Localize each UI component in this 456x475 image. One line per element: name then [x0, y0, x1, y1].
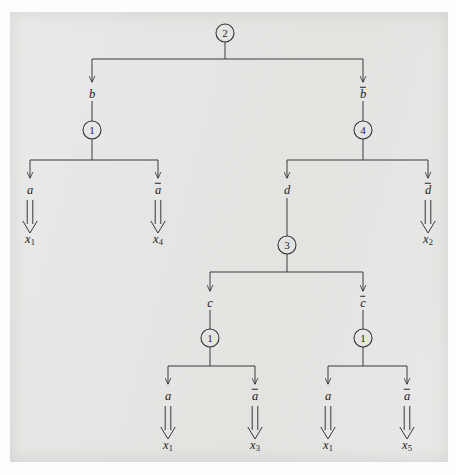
node-label-2: 2 [222, 28, 228, 39]
edge-label-a-2: a [165, 390, 171, 403]
leaf-label-x3: x3 [250, 439, 260, 453]
edge-label-a-bar-3: a [404, 390, 410, 403]
edge-label-d-bar: d [425, 184, 431, 197]
node-label-4: 4 [360, 125, 366, 136]
edge-label-b: b [89, 88, 95, 101]
leaf-label-x1-a: x1 [25, 233, 35, 247]
edge-label-c-bar: c [360, 297, 366, 310]
node-label-1-right: 1 [360, 333, 366, 344]
double-arrow-abar-to-x4 [151, 200, 165, 233]
node-label-1-center: 1 [207, 333, 213, 344]
edge-label-d: d [284, 184, 290, 197]
leaf-label-x5: x5 [402, 439, 412, 453]
node-label-3: 3 [284, 240, 290, 251]
leaf-label-x4: x4 [153, 233, 163, 247]
double-arrow-abar-to-x3 [248, 406, 262, 439]
tree-graphics [0, 0, 456, 475]
leaf-label-x1-b: x1 [163, 439, 173, 453]
node-label-1-left: 1 [89, 125, 95, 136]
double-arrow-dbar-to-x2 [421, 200, 435, 233]
edge-label-a-3: a [325, 390, 331, 403]
edge-label-a-1: a [27, 184, 33, 197]
edge-label-b-bar: b [360, 88, 366, 101]
double-arrow-a-to-x1 [23, 200, 37, 233]
double-arrow-a-to-x1-b [161, 406, 175, 439]
double-arrow-abar-to-x5 [400, 406, 414, 439]
leaf-label-x2: x2 [423, 233, 433, 247]
edge-label-c: c [207, 297, 213, 310]
figure-page: 2 1 4 3 1 1 b b a a d d c c a a a a x1 x… [0, 0, 456, 475]
edge-label-a-bar-1: a [155, 184, 161, 197]
double-arrow-a-to-x1-c [321, 406, 335, 439]
edge-label-a-bar-2: a [252, 390, 258, 403]
leaf-label-x1-c: x1 [323, 439, 333, 453]
